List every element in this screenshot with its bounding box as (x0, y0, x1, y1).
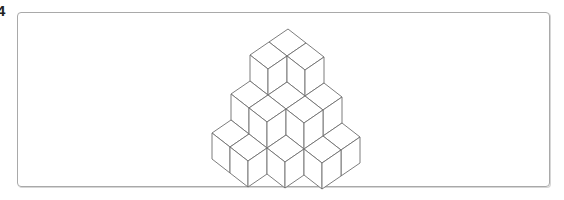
cube-stack-figure (0, 0, 564, 200)
